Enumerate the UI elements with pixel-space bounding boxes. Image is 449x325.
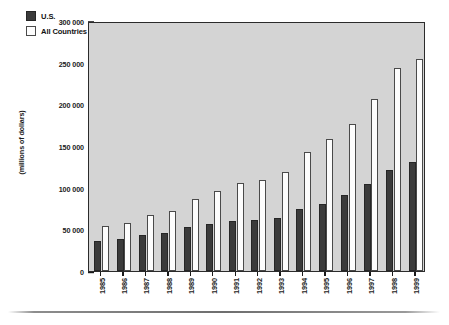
bar-group [319,23,334,271]
x-axis-tick-label: 1989 [188,278,196,294]
y-axis-tick-label: 150 000 [30,143,84,152]
x-axis-tick-mark [145,272,146,276]
bar-all-countries [169,211,176,271]
plot-area [88,22,425,272]
x-axis-tick-mark [414,272,415,276]
x-axis-tick-mark [212,272,213,276]
bar-group [364,23,379,271]
x-axis-tick-label: 1985 [99,278,107,294]
x-axis-tick-mark [190,272,191,276]
legend-swatch-all-countries-icon [26,26,36,36]
bar-all-countries [304,152,311,271]
bar-group [94,23,109,271]
x-axis-tick-mark [324,272,325,276]
bars-container [89,23,424,271]
bar-group [296,23,311,271]
y-axis-tick-label: 0 [30,268,84,277]
bar-us [184,227,191,271]
x-axis-tick-mark [302,272,303,276]
legend-item-all-countries: All Countries [26,25,87,37]
bar-all-countries [214,191,221,271]
chart-legend: U.S. All Countries [26,10,87,37]
bar-us [274,218,281,271]
x-axis-tick-label: 1991 [233,278,241,294]
bar-group [341,23,356,271]
bar-group [117,23,132,271]
x-axis-tick-mark [369,272,370,276]
x-axis-tick-label: 1999 [413,278,421,294]
bar-group [229,23,244,271]
bar-all-countries [282,172,289,271]
bar-all-countries [394,68,401,271]
y-axis-title: (millions of dollars) [17,88,26,198]
bar-us [409,162,416,271]
legend-swatch-us-icon [26,11,36,21]
x-axis-tick-label: 1986 [121,278,129,294]
bar-group [184,23,199,271]
bar-us [319,204,326,272]
x-axis-tick-label: 1996 [346,278,354,294]
bar-us [117,239,124,272]
legend-item-us: U.S. [26,10,87,22]
x-axis-tick-label: 1997 [368,278,376,294]
bar-us [296,209,303,271]
x-axis-tick-mark [235,272,236,276]
bar-all-countries [349,124,356,272]
x-axis-tick-mark [100,272,101,276]
bar-us [161,233,168,271]
x-axis-tick-labels: 1985198619871988198919901991199219931994… [88,278,425,312]
x-axis-tick-mark [257,272,258,276]
bar-all-countries [259,180,266,271]
x-axis-tick-mark [392,272,393,276]
bar-all-countries [102,226,109,271]
bar-us [251,220,258,271]
bar-group [251,23,266,271]
x-axis-tick-mark [122,272,123,276]
bar-all-countries [326,139,333,271]
bar-us [229,221,236,271]
chart-figure: (millions of dollars) 050 000100 000150 … [0,0,449,325]
y-axis-tick-label: 200 000 [30,101,84,110]
x-axis-tick-mark [347,272,348,276]
bar-all-countries [371,99,378,271]
x-axis-tick-label: 1995 [323,278,331,294]
bar-us [94,241,101,271]
y-axis-tick-label: 100 000 [30,184,84,193]
y-axis-tick-label: 250 000 [30,59,84,68]
legend-label-us: U.S. [41,12,55,21]
y-axis-tick-labels: 050 000100 000150 000200 000250 000300 0… [28,0,84,325]
bar-us [364,184,371,271]
bar-group [139,23,154,271]
x-axis-tick-label: 1987 [143,278,151,294]
x-axis-tick-mark [167,272,168,276]
bar-all-countries [147,215,154,271]
bar-group [161,23,176,271]
x-axis-tick-label: 1993 [278,278,286,294]
x-axis-tick-mark [279,272,280,276]
x-axis-tick-label: 1994 [301,278,309,294]
bottom-divider [8,311,440,313]
bar-us [341,195,348,271]
bar-group [409,23,424,271]
bar-all-countries [416,59,423,272]
bar-all-countries [237,183,244,271]
bar-us [206,224,213,272]
x-axis-tick-label: 1998 [391,278,399,294]
y-axis-tick-label: 50 000 [30,226,84,235]
bar-us [386,170,393,271]
bar-group [206,23,221,271]
x-axis-tick-label: 1992 [256,278,264,294]
bar-all-countries [124,223,131,271]
bar-group [274,23,289,271]
x-axis-tick-label: 1988 [166,278,174,294]
legend-label-all-countries: All Countries [41,27,87,36]
bar-group [386,23,401,271]
bar-all-countries [192,199,199,272]
x-axis-tick-label: 1990 [211,278,219,294]
bar-us [139,235,146,271]
